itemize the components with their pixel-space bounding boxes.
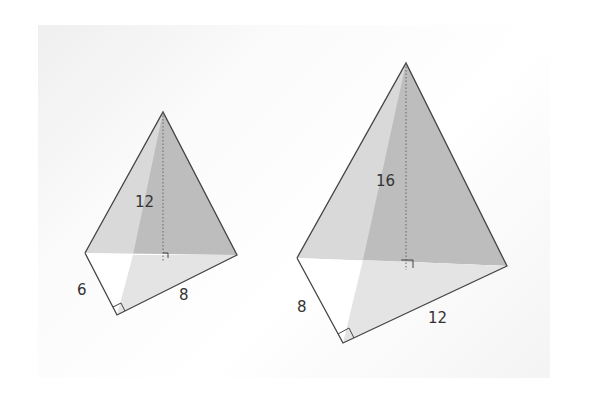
leg-b-label: 12 <box>428 309 447 327</box>
height-label: 12 <box>135 193 154 211</box>
large-pyramid: 16 8 12 <box>297 63 507 343</box>
leg-a-label: 6 <box>77 281 87 299</box>
leg-a-label: 8 <box>297 298 307 316</box>
right-face <box>363 63 507 266</box>
height-label: 16 <box>376 172 395 190</box>
leg-b-label: 8 <box>179 286 189 304</box>
right-face <box>133 112 237 255</box>
small-pyramid: 12 6 8 <box>77 112 237 315</box>
pyramids-diagram: 12 6 8 16 8 12 <box>0 0 591 395</box>
base-shade <box>343 260 507 343</box>
